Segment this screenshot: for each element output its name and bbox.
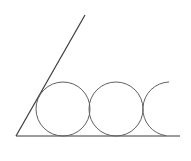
circle-1 [36,82,90,136]
circle-2 [89,82,143,136]
tangent-circles-diagram [0,0,191,161]
circle-3-partial-arc [143,82,169,136]
slanted-ray [16,15,85,136]
